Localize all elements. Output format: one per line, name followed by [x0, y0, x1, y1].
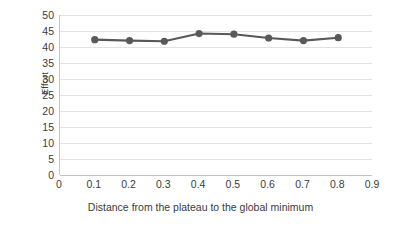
- y-tick-label: 5: [6, 154, 54, 165]
- data-point: [161, 38, 168, 45]
- y-tick-label: 35: [6, 58, 54, 69]
- data-point: [196, 30, 203, 37]
- data-point: [126, 37, 133, 44]
- y-tick-label: 15: [6, 122, 54, 133]
- x-axis-tick-labels: 00.10.20.30.40.50.60.70.80.9: [59, 178, 372, 194]
- line-chart: Effort 50454035302520151050 00.10.20.30.…: [0, 0, 401, 229]
- y-axis-tick-labels: 50454035302520151050: [0, 15, 54, 175]
- x-axis-title: Distance from the plateau to the global …: [0, 201, 401, 213]
- x-tick-label: 0.9: [352, 178, 392, 190]
- y-tick-label: 40: [6, 42, 54, 53]
- y-tick-label: 20: [6, 106, 54, 117]
- gridline-y-0: [60, 175, 372, 176]
- data-point: [300, 37, 307, 44]
- series-effort: [60, 15, 373, 175]
- y-tick-label: 10: [6, 138, 54, 149]
- y-tick-label: 25: [6, 90, 54, 101]
- data-point: [335, 34, 342, 41]
- series-markers: [91, 30, 342, 45]
- data-point: [91, 36, 98, 43]
- data-point: [265, 34, 272, 41]
- plot-area: [59, 15, 372, 175]
- data-point: [230, 31, 237, 38]
- y-tick-label: 30: [6, 74, 54, 85]
- y-tick-label: 45: [6, 26, 54, 37]
- y-tick-label: 50: [6, 10, 54, 21]
